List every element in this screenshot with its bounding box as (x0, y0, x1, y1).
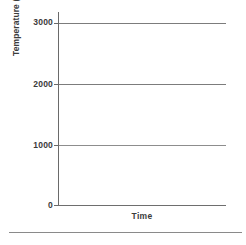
y-tick-label-2000: 2000 (23, 79, 53, 90)
y-axis-line (58, 12, 59, 206)
y-tick-label-1000: 1000 (23, 140, 53, 151)
y-tick-label-3000: 3000 (23, 17, 53, 28)
gridline-2000 (59, 84, 226, 85)
chart-figure: Temperature (°C) 3000 2000 1000 0 Time (0, 0, 246, 245)
page-rule-divider (9, 232, 242, 233)
y-axis-label: Temperature (°C) (9, 0, 23, 76)
y-tick-label-0: 0 (23, 200, 53, 211)
x-axis-label: Time (58, 211, 226, 221)
x-axis-line (58, 205, 226, 206)
gridline-3000 (59, 23, 226, 24)
gridline-1000 (59, 145, 226, 146)
y-axis-tick-labels: 3000 2000 1000 0 (22, 0, 53, 245)
